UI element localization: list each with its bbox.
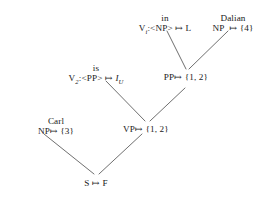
node-value: L: [186, 23, 192, 33]
maps-to-arrow-icon: ↦: [105, 73, 113, 83]
node-value: {1, 2}: [145, 124, 169, 134]
tree-edge: [189, 31, 228, 69]
node-value: {1, 2}: [185, 72, 209, 82]
cat-symbol: NP: [38, 126, 50, 136]
cat-valency: :<PP>: [79, 73, 103, 83]
cat-symbol: V: [139, 23, 146, 33]
node-value-subscript: U: [119, 78, 124, 85]
cat-symbol: V: [68, 73, 75, 83]
node-value: F: [102, 178, 107, 188]
maps-to-arrow-icon: ↦: [92, 178, 100, 188]
cat-symbol: VP: [123, 124, 135, 134]
node-label-np-carl: NP↦ {3}: [38, 126, 74, 136]
node-value: {3}: [60, 126, 74, 136]
tree-edge: [106, 81, 145, 121]
maps-to-arrow-icon: ↦: [175, 23, 183, 33]
node-word-carl: Carl: [38, 116, 74, 126]
cat-valency: :<NP>: [147, 23, 172, 33]
node-word-is: is: [68, 63, 123, 73]
node-label-vp: VP↦ {1, 2}: [123, 124, 169, 134]
tree-edge: [150, 88, 185, 121]
node-np-dalian: Dalian NP ↦ {4}: [212, 13, 253, 34]
maps-to-arrow-icon: ↦: [229, 23, 237, 33]
node-np-carl: Carl NP↦ {3}: [38, 116, 74, 137]
node-vp: VP↦ {1, 2}: [123, 124, 169, 134]
derivation-tree-diagram: in Vi:<NP> ↦ L Dalian NP ↦ {4} is V2:<PP…: [0, 0, 272, 205]
maps-to-arrow-icon: ↦: [50, 126, 58, 136]
cat-symbol: PP: [164, 72, 175, 82]
cat-symbol: S: [84, 178, 89, 188]
node-s: S ↦ F: [84, 178, 107, 188]
node-value: {4}: [240, 23, 254, 33]
node-pp: PP↦ {1, 2}: [164, 72, 208, 82]
maps-to-arrow-icon: ↦: [135, 124, 143, 134]
tree-edge: [167, 31, 186, 69]
node-label-np-dalian: NP ↦ {4}: [212, 23, 253, 33]
node-word-dalian: Dalian: [212, 13, 253, 23]
node-v-np: in Vi:<NP> ↦ L: [139, 13, 192, 36]
node-label-v-pp: V2:<PP> ↦ IU: [68, 73, 123, 85]
cat-symbol: NP: [212, 23, 224, 33]
node-label-v-np: Vi:<NP> ↦ L: [139, 23, 192, 35]
tree-edge: [99, 134, 142, 174]
node-word-in: in: [139, 13, 192, 23]
node-label-s: S ↦ F: [84, 178, 107, 188]
tree-edge: [44, 134, 94, 174]
node-label-pp: PP↦ {1, 2}: [164, 72, 208, 82]
node-v-pp: is V2:<PP> ↦ IU: [68, 63, 123, 86]
maps-to-arrow-icon: ↦: [174, 72, 182, 82]
